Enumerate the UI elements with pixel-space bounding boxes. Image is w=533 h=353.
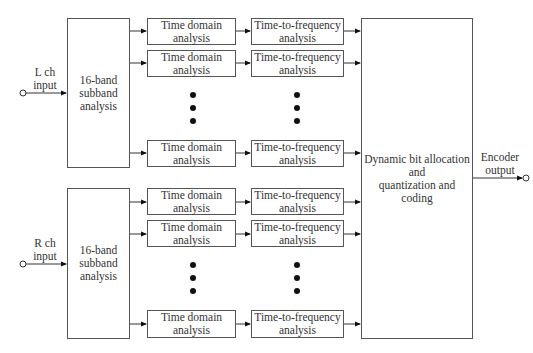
r-time-domain-block-1: Time domain analysis — [147, 188, 236, 215]
r-time-domain-block-n: Time domain analysis — [147, 310, 236, 338]
ellipsis-dot-icon — [294, 275, 300, 281]
ellipsis-dot-icon — [294, 288, 300, 294]
r-subband-analysis-block: 16-band subband analysis — [67, 188, 130, 339]
r-time-to-frequency-block-n: Time-to-frequency analysis — [251, 310, 344, 338]
bit-allocation-quantization-coding-block: Dynamic bit allocation and quantization … — [361, 18, 473, 339]
ellipsis-dot-icon — [190, 118, 196, 124]
l-time-domain-block-1: Time domain analysis — [147, 18, 236, 45]
ellipsis-dot-icon — [190, 288, 196, 294]
r-ch-input-label: R ch input — [26, 237, 64, 263]
ellipsis-dot-icon — [190, 105, 196, 111]
ellipsis-dot-icon — [294, 105, 300, 111]
l-subband-analysis-block: 16-band subband analysis — [67, 18, 130, 168]
encoder-output-label: Encoder output — [472, 151, 528, 177]
ellipsis-dot-icon — [190, 275, 196, 281]
ellipsis-dot-icon — [294, 118, 300, 124]
l-time-to-frequency-block-2: Time-to-frequency analysis — [251, 50, 344, 77]
l-time-domain-block-n: Time domain analysis — [147, 140, 236, 167]
ellipsis-dot-icon — [294, 92, 300, 98]
r-time-to-frequency-block-1: Time-to-frequency analysis — [251, 188, 344, 215]
ellipsis-dot-icon — [190, 262, 196, 268]
l-time-to-frequency-block-1: Time-to-frequency analysis — [251, 18, 344, 45]
ellipsis-dot-icon — [190, 92, 196, 98]
l-time-domain-block-2: Time domain analysis — [147, 50, 236, 77]
r-time-domain-block-2: Time domain analysis — [147, 220, 236, 247]
l-time-to-frequency-block-n: Time-to-frequency analysis — [251, 140, 344, 167]
l-ch-input-label: L ch input — [26, 66, 64, 92]
ellipsis-dot-icon — [294, 262, 300, 268]
r-time-to-frequency-block-2: Time-to-frequency analysis — [251, 220, 344, 247]
